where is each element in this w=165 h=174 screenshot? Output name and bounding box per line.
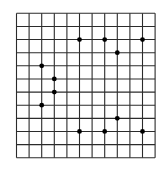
grid-dot bbox=[39, 103, 44, 108]
grid-dot bbox=[140, 37, 145, 42]
grid-dot bbox=[115, 50, 120, 55]
grid-dot bbox=[77, 129, 82, 134]
grid-dot bbox=[115, 116, 120, 121]
dot-grid-figure bbox=[0, 0, 165, 174]
grid-dot bbox=[77, 37, 82, 42]
grid-dot bbox=[52, 77, 57, 82]
grid-dot bbox=[102, 129, 107, 134]
grid-dot bbox=[140, 129, 145, 134]
grid-dot bbox=[52, 90, 57, 95]
grid-dot bbox=[39, 63, 44, 68]
grid-dot bbox=[102, 37, 107, 42]
